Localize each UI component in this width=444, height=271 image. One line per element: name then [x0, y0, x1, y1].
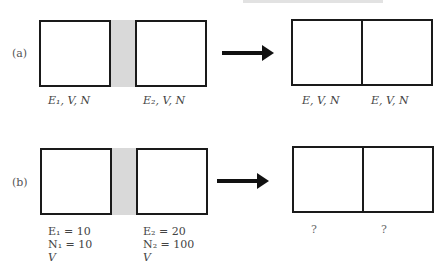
panel-a-final-divider	[361, 19, 363, 86]
panel-b-partition	[110, 148, 138, 215]
panel-b-right-values: E₂ = 20 N₂ = 100 V	[143, 225, 194, 264]
panel-b-initial-container	[40, 148, 208, 215]
panel-a-left-label: E₁, V, N	[48, 94, 90, 107]
panel-b-right-particles: N₂ = 100	[143, 238, 194, 251]
cropped-text-line	[243, 0, 383, 3]
panel-a-final-container	[291, 19, 433, 86]
panel-b-left-energy: E₁ = 10	[48, 225, 92, 238]
panel-b-left-values: E₁ = 10 N₁ = 10 V	[48, 225, 92, 264]
panel-b-final-right-unknown: ?	[381, 223, 387, 236]
panel-b-right-volume: V	[143, 251, 194, 264]
right-arrow-icon	[222, 51, 264, 55]
panel-a-right-label: E₂, V, N	[143, 94, 185, 107]
panel-a-partition	[109, 20, 137, 87]
panel-b-left-volume: V	[48, 251, 92, 264]
panel-b-final-divider	[362, 146, 364, 213]
panel-b-right-energy: E₂ = 20	[143, 225, 194, 238]
panel-a-initial-container	[39, 20, 207, 87]
panel-b-left-particles: N₁ = 10	[48, 238, 92, 251]
panel-b-final-left-unknown: ?	[311, 223, 317, 236]
panel-b-final-container	[292, 146, 434, 213]
panel-b-label: (b)	[12, 176, 28, 189]
panel-a-final-left-label: E, V, N	[302, 94, 340, 107]
panel-a-final-right-label: E, V, N	[371, 94, 409, 107]
panel-a-label: (a)	[12, 47, 27, 60]
right-arrow-icon	[217, 179, 259, 183]
